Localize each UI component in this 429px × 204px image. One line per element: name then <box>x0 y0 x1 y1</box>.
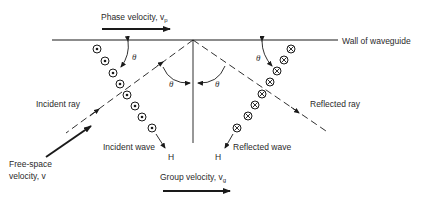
reflected-wave-label: Reflected wave <box>233 142 291 152</box>
incident-field-symbols <box>93 45 156 132</box>
incident-ray-arrow <box>90 109 99 116</box>
incident-ray <box>66 40 193 133</box>
theta-arc-right <box>198 66 225 83</box>
theta-center-left: θ <box>169 79 174 89</box>
incident-ray-arrow-upper <box>157 62 163 66</box>
theta-reflected-wall: θ <box>256 53 261 63</box>
incident-h-arrow <box>156 134 165 148</box>
theta-arc-left <box>163 67 190 83</box>
theta-arc-incident-wall <box>121 41 128 67</box>
incident-wave-label: Incident wave <box>103 142 155 152</box>
free-space-label-line2: velocity, v <box>9 171 46 181</box>
incident-h-label: H <box>168 152 174 162</box>
reflected-field-symbols <box>233 45 295 132</box>
waveguide-diagram: Phase velocity, vp Wall of waveguide Inc… <box>0 0 429 204</box>
theta-arc-reflected-wall <box>262 41 272 66</box>
reflected-h-label: H <box>215 152 221 162</box>
reflected-h-arrow <box>225 134 233 148</box>
incident-ray-label: Incident ray <box>36 99 81 109</box>
group-velocity-label: Group velocity, vg <box>160 172 226 183</box>
free-space-label-line1: Free-space <box>9 159 52 169</box>
phase-velocity-label: Phase velocity, vp <box>101 12 168 23</box>
wall-label: Wall of waveguide <box>342 36 411 46</box>
theta-center-right: θ <box>215 79 220 89</box>
reflected-ray-arrow <box>291 107 299 113</box>
theta-incident-wall: θ <box>132 52 137 62</box>
reflected-ray-label: Reflected ray <box>310 99 361 109</box>
